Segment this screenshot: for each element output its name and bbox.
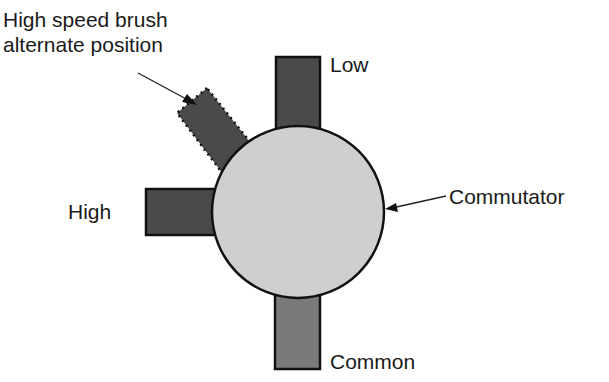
commutator-arrow-head bbox=[385, 203, 398, 212]
alternate-arrow-line bbox=[138, 73, 190, 101]
common-brush bbox=[275, 290, 320, 369]
high-label: High bbox=[68, 200, 111, 224]
commutator-label: Commutator bbox=[449, 185, 565, 209]
commutator bbox=[212, 126, 384, 298]
commutator-arrow-line bbox=[392, 196, 446, 208]
alternate-label-line1: High speed brush bbox=[3, 8, 168, 32]
common-label: Common bbox=[330, 350, 415, 374]
alternate-label-line2: alternate position bbox=[3, 33, 163, 57]
low-label: Low bbox=[330, 53, 369, 77]
